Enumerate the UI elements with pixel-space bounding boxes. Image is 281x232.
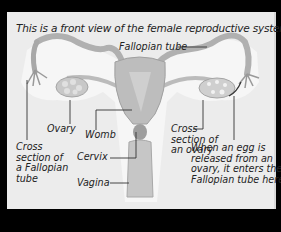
label-egg-release-note: When an egg is released from an ovary, i… <box>191 143 281 185</box>
vagina <box>127 140 153 197</box>
diagram-caption: This is a front view of the female repro… <box>16 22 281 34</box>
label-ovary: Ovary <box>47 124 76 135</box>
label-cervix: Cervix <box>77 152 108 163</box>
diagram-panel: This is a front view of the female repro… <box>7 12 276 209</box>
label-cross-section-fallopian: Cross section of a Fallopian tube <box>16 142 68 184</box>
label-vagina: Vagina <box>77 178 110 189</box>
label-fallopian-tube: Fallopian tube <box>119 42 187 53</box>
cervix <box>133 124 147 140</box>
label-womb: Womb <box>85 130 116 141</box>
